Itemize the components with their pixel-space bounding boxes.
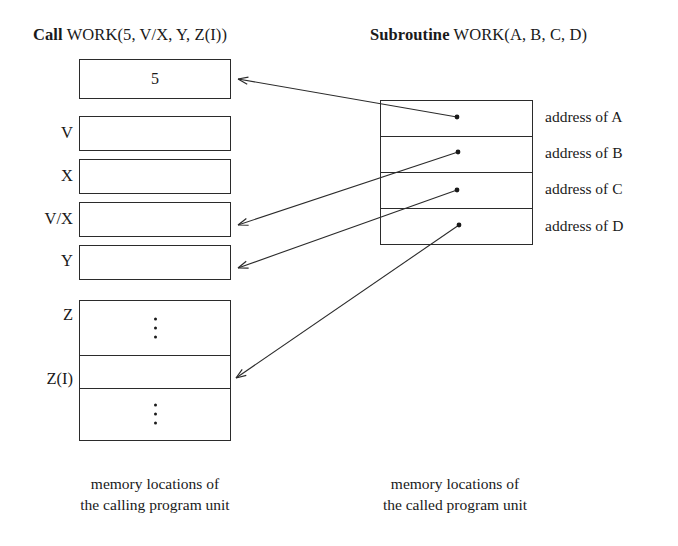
variable-label-x: X bbox=[0, 166, 73, 186]
variable-label-z-of-i: Z(I) bbox=[0, 369, 73, 389]
caption-line: the called program unit bbox=[335, 494, 575, 515]
variable-label-v: V bbox=[0, 123, 73, 143]
address-label-d: address of D bbox=[545, 217, 623, 235]
subroutine-heading: Subroutine WORK(A, B, C, D) bbox=[370, 25, 587, 45]
memory-cell-value: 5 bbox=[80, 70, 230, 88]
memory-cell-address-c bbox=[381, 173, 532, 209]
address-label-c: address of C bbox=[545, 180, 623, 198]
memory-cell-address-d bbox=[381, 209, 532, 246]
address-label-a: address of A bbox=[545, 108, 623, 126]
variable-label-z: Z bbox=[0, 305, 73, 325]
memory-cell-x bbox=[79, 159, 231, 194]
memory-block-z-array bbox=[79, 300, 231, 441]
memory-cell-address-b bbox=[381, 137, 532, 173]
caption-line: memory locations of bbox=[335, 473, 575, 494]
caption-line: the calling program unit bbox=[35, 494, 275, 515]
caption-calling-unit: memory locations of the calling program … bbox=[35, 473, 275, 515]
address-label-b: address of B bbox=[545, 144, 623, 162]
subroutine-signature: WORK(A, B, C, D) bbox=[450, 25, 588, 44]
memory-cell-address-a bbox=[381, 101, 532, 137]
memory-cell-z-upper-ellipsis bbox=[80, 301, 230, 356]
call-keyword: Call bbox=[33, 25, 63, 44]
diagram-canvas: Call WORK(5, V/X, Y, Z(I)) Subroutine WO… bbox=[0, 0, 678, 546]
caption-called-unit: memory locations of the called program u… bbox=[335, 473, 575, 515]
subroutine-keyword: Subroutine bbox=[370, 25, 450, 44]
memory-cell-v-over-x bbox=[79, 202, 231, 237]
variable-label-v-over-x: V/X bbox=[0, 209, 73, 229]
variable-label-y: Y bbox=[0, 251, 73, 271]
memory-cell-y bbox=[79, 245, 231, 280]
memory-block-called-unit bbox=[380, 100, 533, 245]
memory-cell-z-lower-ellipsis bbox=[80, 389, 230, 439]
caption-line: memory locations of bbox=[35, 473, 275, 494]
memory-cell-v bbox=[79, 116, 231, 151]
call-heading: Call WORK(5, V/X, Y, Z(I)) bbox=[33, 25, 227, 45]
memory-cell-z-of-i bbox=[80, 356, 230, 389]
memory-cell-constant-5: 5 bbox=[79, 59, 231, 99]
vertical-ellipsis-icon bbox=[80, 318, 230, 339]
vertical-ellipsis-icon bbox=[80, 404, 230, 425]
call-signature: WORK(5, V/X, Y, Z(I)) bbox=[63, 25, 227, 44]
